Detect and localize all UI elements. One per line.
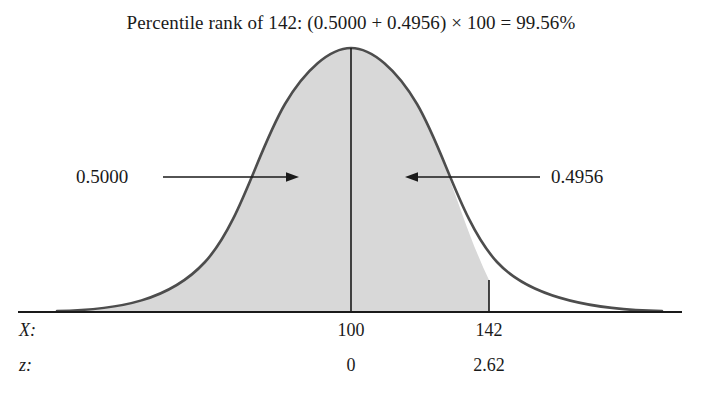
right-area-label: 0.4956 [551,166,603,188]
axis-row-label-x: X: [19,320,36,341]
left-area-label: 0.5000 [76,166,128,188]
axis-tick-x-mean: 100 [338,320,365,341]
axis-row-label-z: z: [19,355,32,376]
axis-tick-z-cutoff: 2.62 [473,355,505,376]
distribution-plot [0,0,702,403]
axis-tick-z-mean: 0 [347,355,356,376]
axis-tick-x-cutoff: 142 [476,320,503,341]
figure-title: Percentile rank of 142: (0.5000 + 0.4956… [0,12,702,34]
normal-distribution-figure: Percentile rank of 142: (0.5000 + 0.4956… [0,0,702,403]
